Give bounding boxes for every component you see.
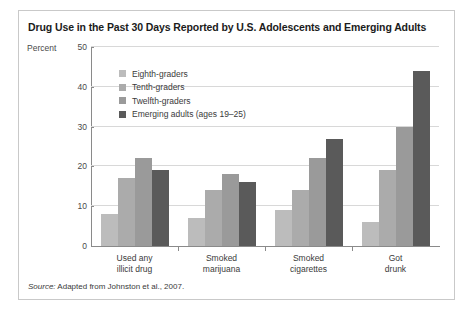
legend-color-swatch	[119, 111, 126, 118]
bar	[222, 174, 239, 246]
y-axis-tick-mark	[91, 47, 94, 48]
x-axis-category-label: Used anyillicit drug	[91, 253, 178, 275]
x-axis-category-label: Gotdrunk	[352, 253, 439, 275]
bar	[309, 158, 326, 246]
bar	[413, 71, 430, 246]
x-axis-category-line: Smoked	[265, 253, 352, 264]
x-axis-category-line: Got	[352, 253, 439, 264]
source-label: Source:	[28, 282, 56, 291]
figure-frame: Drug Use in the Past 30 Days Reported by…	[18, 10, 455, 300]
bar	[152, 170, 169, 246]
x-axis-tick-mark	[178, 247, 179, 251]
legend-item: Tenth-graders	[119, 81, 246, 95]
legend-label: Twelfth-graders	[132, 96, 191, 106]
x-axis-category-line: Smoked	[178, 253, 265, 264]
bar	[239, 182, 256, 246]
y-axis-tick-mark	[91, 206, 94, 207]
legend-color-swatch	[119, 70, 126, 77]
source-note: Source: Adapted from Johnston et al., 20…	[28, 282, 184, 291]
x-axis-category-label: Smokedmarijuana	[178, 253, 265, 275]
x-axis-category-line: marijuana	[178, 264, 265, 275]
chart-legend: Eighth-gradersTenth-gradersTwelfth-grade…	[119, 67, 246, 121]
x-axis-category-line: cigarettes	[265, 264, 352, 275]
bar	[101, 214, 118, 246]
y-axis-tick-mark	[91, 166, 94, 167]
bar	[379, 170, 396, 246]
legend-color-swatch	[119, 97, 126, 104]
chart-title: Drug Use in the Past 30 Days Reported by…	[28, 21, 448, 33]
x-axis-category-line: illicit drug	[91, 264, 178, 275]
bar	[205, 190, 222, 246]
legend-item: Emerging adults (ages 19–25)	[119, 108, 246, 122]
bar	[326, 139, 343, 246]
legend-label: Emerging adults (ages 19–25)	[132, 109, 246, 119]
bar	[118, 178, 135, 246]
bar-group	[265, 47, 352, 246]
legend-item: Twelfth-graders	[119, 94, 246, 108]
bar	[396, 127, 413, 246]
y-axis-tick-label: 40	[63, 82, 87, 92]
y-axis-tick-labels: 01020304050	[59, 47, 87, 247]
source-citation: Adapted from Johnston et al., 2007.	[56, 282, 185, 291]
x-axis-category-line: Used any	[91, 253, 178, 264]
y-axis-tick-label: 0	[63, 241, 87, 251]
bar-group	[352, 47, 439, 246]
y-axis-tick-mark	[91, 87, 94, 88]
y-axis-tick-label: 30	[63, 122, 87, 132]
y-axis-unit-label: Percent	[27, 43, 56, 53]
y-axis-tick-mark	[91, 246, 94, 247]
bar	[275, 210, 292, 246]
x-axis-category-line: drunk	[352, 264, 439, 275]
y-axis-tick-label: 20	[63, 161, 87, 171]
y-axis-tick-label: 10	[63, 201, 87, 211]
y-axis-tick-mark	[91, 127, 94, 128]
legend-label: Eighth-graders	[132, 69, 188, 79]
bar	[135, 158, 152, 246]
bar	[362, 222, 379, 246]
x-axis-tick-mark	[265, 247, 266, 251]
legend-color-swatch	[119, 84, 126, 91]
x-axis-tick-mark	[352, 247, 353, 251]
legend-item: Eighth-graders	[119, 67, 246, 81]
bar	[188, 218, 205, 246]
legend-label: Tenth-graders	[132, 82, 184, 92]
x-axis-category-label: Smokedcigarettes	[265, 253, 352, 275]
bar	[292, 190, 309, 246]
y-axis-tick-label: 50	[63, 42, 87, 52]
